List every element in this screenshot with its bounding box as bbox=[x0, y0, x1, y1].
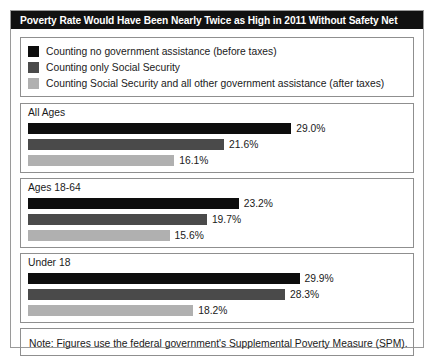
chart-figure: Poverty Rate Would Have Been Nearly Twic… bbox=[10, 10, 424, 348]
legend-swatch-icon bbox=[28, 62, 39, 73]
bar-row: 29.9% bbox=[21, 270, 413, 286]
chart-title-bar: Poverty Rate Would Have Been Nearly Twic… bbox=[11, 11, 423, 29]
bar-series-1 bbox=[28, 123, 291, 134]
bar-row: 23.2% bbox=[21, 195, 413, 211]
bar-value-label: 29.9% bbox=[305, 273, 334, 284]
legend-item: Counting Social Security and all other g… bbox=[28, 75, 407, 91]
legend-item-label: Counting no government assistance (befor… bbox=[46, 46, 277, 57]
legend-item-label: Counting only Social Security bbox=[46, 62, 180, 73]
bar-value-label: 28.3% bbox=[290, 289, 319, 300]
bar-row: 29.0% bbox=[21, 120, 413, 136]
bar-value-label: 16.1% bbox=[179, 155, 208, 166]
bar-row: 18.2% bbox=[21, 302, 413, 318]
bar-series-2 bbox=[28, 289, 285, 300]
bar-row: 16.1% bbox=[21, 152, 413, 168]
bar-row: 19.7% bbox=[21, 211, 413, 227]
page-title: Poverty Rate Would Have Been Nearly Twic… bbox=[20, 15, 397, 26]
bar-value-label: 15.6% bbox=[175, 230, 204, 241]
chart-note-text: Note: Figures use the federal government… bbox=[29, 338, 408, 349]
legend-item: Counting only Social Security bbox=[28, 59, 407, 75]
legend-item-label: Counting Social Security and all other g… bbox=[46, 78, 384, 89]
bar-group-label: Ages 18-64 bbox=[21, 181, 413, 195]
bar-series-3 bbox=[28, 230, 170, 241]
bar-series-2 bbox=[28, 139, 224, 150]
legend-swatch-icon bbox=[28, 46, 39, 57]
bar-group: Ages 18-64 23.2% 19.7% 15.6% bbox=[20, 178, 414, 248]
bar-group: Under 18 29.9% 28.3% 18.2% bbox=[20, 253, 414, 323]
bar-series-1 bbox=[28, 198, 239, 209]
bar-series-2 bbox=[28, 214, 207, 225]
bar-group: All Ages 29.0% 21.6% 16.1% bbox=[20, 103, 414, 173]
bar-value-label: 19.7% bbox=[212, 214, 241, 225]
chart-legend: Counting no government assistance (befor… bbox=[20, 37, 414, 97]
bar-value-label: 21.6% bbox=[229, 139, 258, 150]
bar-value-label: 23.2% bbox=[244, 198, 273, 209]
chart-note: Note: Figures use the federal government… bbox=[20, 328, 414, 356]
chart-plot-area: All Ages 29.0% 21.6% 16.1% Ages 18-64 23… bbox=[20, 103, 414, 323]
bar-group-label: Under 18 bbox=[21, 256, 413, 270]
bar-row: 15.6% bbox=[21, 227, 413, 243]
bar-group-label: All Ages bbox=[21, 106, 413, 120]
bar-series-1 bbox=[28, 273, 300, 284]
bar-row: 28.3% bbox=[21, 286, 413, 302]
bar-series-3 bbox=[28, 155, 174, 166]
legend-item: Counting no government assistance (befor… bbox=[28, 43, 407, 59]
bar-row: 21.6% bbox=[21, 136, 413, 152]
legend-swatch-icon bbox=[28, 78, 39, 89]
bar-value-label: 29.0% bbox=[296, 123, 325, 134]
bar-value-label: 18.2% bbox=[198, 305, 227, 316]
bar-series-3 bbox=[28, 305, 193, 316]
